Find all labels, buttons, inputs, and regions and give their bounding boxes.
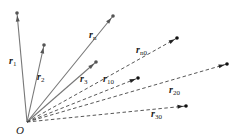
- vector-line: [27, 16, 113, 122]
- arrowhead-icon: [218, 64, 224, 68]
- arrowhead-icon: [177, 105, 183, 109]
- vector-r3: [27, 60, 98, 122]
- vector-rn: [27, 14, 115, 122]
- vector-line: [27, 78, 138, 122]
- vector-r20: [27, 62, 229, 122]
- solid-vectors: [15, 11, 115, 122]
- label-rn0: rn0: [136, 44, 147, 57]
- arrowhead-icon: [169, 39, 175, 44]
- endpoint-dot: [94, 60, 98, 64]
- arrowhead-icon: [40, 47, 44, 53]
- endpoint-dot: [42, 43, 46, 47]
- endpoint-dot: [225, 62, 229, 66]
- label-rn: rn: [89, 29, 97, 42]
- label-r20: r20: [169, 84, 180, 97]
- label-r30: r30: [151, 108, 162, 121]
- endpoint-dot: [184, 104, 188, 108]
- vector-r30: [27, 104, 188, 122]
- vector-labels: r1r2rnr3rn0r10r20r30: [9, 29, 180, 121]
- origin-label: O: [16, 124, 24, 136]
- endpoint-dot: [175, 36, 179, 40]
- dashed-vectors: [27, 36, 229, 122]
- endpoint-dot: [136, 76, 140, 80]
- endpoint-dot: [111, 14, 115, 18]
- position-vectors-diagram: r1r2rnr3rn0r10r20r30 O: [0, 0, 236, 140]
- vector-line: [27, 64, 227, 122]
- vector-r1: [15, 11, 27, 122]
- vector-line: [17, 13, 27, 122]
- label-r2: r2: [37, 71, 45, 84]
- endpoint-dot: [15, 11, 19, 15]
- arrowhead-icon: [129, 79, 135, 83]
- label-r3: r3: [80, 73, 88, 86]
- label-r1: r1: [9, 55, 17, 68]
- label-r10: r10: [103, 73, 114, 86]
